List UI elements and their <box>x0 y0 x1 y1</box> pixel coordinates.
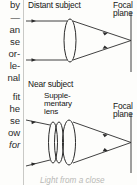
bottom-incoming-ray-lower <box>26 160 50 166</box>
arrowhead-icon <box>32 19 37 23</box>
bottom-outgoing-ray-lower <box>73 143 131 164</box>
scanned-page-fragment: by — an se or- le- nal fit he se ow for … <box>0 0 137 185</box>
text-fragment: by <box>10 0 20 10</box>
ray-diagram-panel: Distant subject Focal plane Near subject… <box>24 0 137 185</box>
text-fragment: an <box>10 25 20 35</box>
bottom-outgoing-ray-upper <box>73 122 131 143</box>
text-fragment: nal <box>7 73 20 83</box>
ray-geometry-svg <box>24 0 137 185</box>
text-fragment: le- <box>10 61 20 71</box>
arrowhead-icon <box>31 163 36 167</box>
text-fragment: — <box>11 13 21 23</box>
arrowhead-icon <box>103 148 108 151</box>
text-fragment: fit <box>13 92 20 102</box>
top-outgoing-ray-lower <box>73 41 131 61</box>
arrowhead-icon <box>32 58 37 62</box>
text-fragment: or- <box>9 49 20 59</box>
text-fragment: se <box>10 116 20 126</box>
arrowhead-icon <box>103 32 108 35</box>
text-fragment: he <box>10 104 20 114</box>
text-fragment: for <box>9 140 20 150</box>
cut-off-body-text-column: by — an se or- le- nal fit he se ow for <box>0 0 21 185</box>
arrowhead-icon <box>103 45 108 48</box>
bottom-incoming-ray-upper <box>26 120 50 125</box>
top-outgoing-ray-upper <box>73 21 131 41</box>
arrowhead-icon <box>103 134 108 137</box>
text-fragment: se <box>10 37 20 47</box>
text-fragment: ow <box>8 128 20 138</box>
main-lens-top <box>64 19 76 62</box>
main-lens-bottom <box>63 120 76 165</box>
